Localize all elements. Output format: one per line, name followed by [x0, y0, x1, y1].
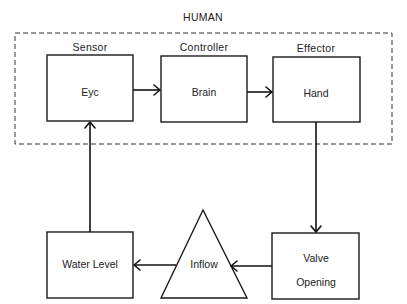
- water-level-label: Water Level: [62, 258, 118, 270]
- arrow-inflow-to-water-level: [134, 260, 176, 270]
- feedback-loop-diagram: HUMAN Sensor Controller Effector Eyc Bra…: [0, 0, 407, 304]
- valve-label-line1: Valve: [303, 252, 329, 264]
- water-level-node: Water Level: [47, 232, 133, 298]
- sensor-role-label: Sensor: [72, 41, 107, 53]
- hand-label: Hand: [303, 87, 328, 99]
- eye-label: Eyc: [81, 86, 99, 98]
- arrow-brain-to-hand: [247, 87, 272, 97]
- inflow-label: Inflow: [190, 258, 218, 270]
- arrow-water-level-to-eye: [85, 122, 95, 232]
- human-group-title: HUMAN: [183, 11, 223, 23]
- valve-label-line2: Opening: [296, 276, 336, 288]
- valve-opening-node: Valve Opening: [272, 233, 359, 299]
- controller-role-label: Controller: [180, 41, 229, 53]
- hand-node: Hand: [273, 57, 360, 122]
- arrow-eye-to-brain: [133, 85, 160, 95]
- brain-label: Brain: [192, 86, 217, 98]
- arrow-valve-to-inflow: [231, 261, 272, 271]
- eye-node: Eyc: [47, 55, 133, 121]
- arrow-hand-to-valve: [311, 122, 321, 232]
- effector-role-label: Effector: [297, 42, 336, 54]
- brain-node: Brain: [161, 56, 247, 122]
- inflow-node: Inflow: [161, 210, 247, 298]
